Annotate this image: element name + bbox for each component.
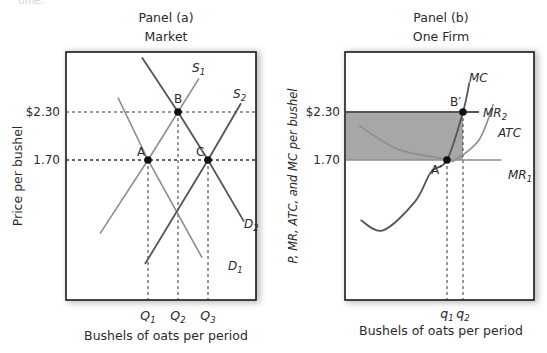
x-tick-label: Q3 xyxy=(200,308,215,325)
point-b xyxy=(459,108,467,116)
point-a xyxy=(443,156,451,164)
y-tick-label: $2.30 xyxy=(26,105,60,119)
panel-a-x-axis-label: Bushels of oats per period xyxy=(84,328,248,343)
x-tick-label: Q2 xyxy=(170,308,185,325)
x-tick-label: q2 xyxy=(456,306,469,323)
point-label: B′ xyxy=(450,95,461,109)
point-label: A xyxy=(137,145,146,159)
point-label: C xyxy=(196,145,204,159)
x-tick-label: Q1 xyxy=(140,308,155,325)
panel-a-label: Panel (a) xyxy=(138,10,193,25)
y-tick-label: 1.70 xyxy=(313,153,340,167)
figure: Panel (a) Market D1D2S1S2 ABC $2.301.70 … xyxy=(0,0,547,353)
panel-b-y-axis-label: P, MR, ATC, and MC per bushel xyxy=(286,88,300,264)
point-b xyxy=(174,108,182,116)
point-c xyxy=(204,156,212,164)
panel-a: Panel (a) Market D1D2S1S2 ABC $2.301.70 … xyxy=(10,10,260,343)
curve-label-atc: ATC xyxy=(497,126,522,140)
curve-label-mc: MC xyxy=(469,71,488,85)
shaded-profit-region xyxy=(346,112,463,160)
panel-b-x-axis-label: Bushels of oats per period xyxy=(359,323,523,338)
panel-b-label: Panel (b) xyxy=(413,10,468,25)
y-tick-label: 1.70 xyxy=(33,153,60,167)
panel-b-title: One Firm xyxy=(413,29,469,44)
point-label: A′ xyxy=(431,163,442,177)
point-label: B xyxy=(174,92,182,106)
panel-a-title: Market xyxy=(145,29,188,44)
x-tick-label: q1 xyxy=(440,306,453,323)
point-a xyxy=(144,156,152,164)
panel-a-y-axis-label: Price per bushel xyxy=(10,126,25,227)
y-tick-label: $2.30 xyxy=(306,105,340,119)
panel-b: Panel (b) One Firm MCATCMR2MR1 A′B′ $2.3… xyxy=(286,10,538,338)
